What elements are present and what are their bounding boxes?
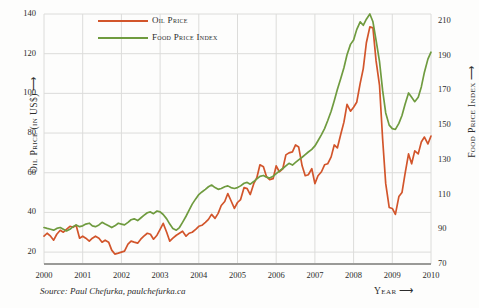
x-tick-2008: 2008	[334, 270, 374, 280]
legend-swatches	[98, 21, 148, 38]
x-axis-title: Year ⟶	[374, 285, 414, 296]
y-tick-right-150: 150	[438, 119, 468, 129]
x-tick-2007: 2007	[295, 270, 335, 280]
y-axis-left-title: Oil Price (in US$) ⟶	[28, 40, 39, 210]
y-tick-right-170: 170	[438, 84, 468, 94]
x-tick-2010: 2010	[411, 270, 451, 280]
y-tick-right-70: 70	[438, 258, 468, 268]
chart-plot-area	[0, 0, 479, 308]
x-tick-2004: 2004	[179, 270, 219, 280]
y-tick-left-120: 120	[8, 48, 36, 58]
x-tick-2002: 2002	[101, 270, 141, 280]
x-tick-2003: 2003	[140, 270, 180, 280]
x-tick-2005: 2005	[218, 270, 258, 280]
y-tick-left-140: 140	[8, 8, 36, 18]
y-tick-right-130: 130	[438, 154, 468, 164]
legend-label-food-price-index: Food Price Index	[152, 32, 218, 42]
y-tick-left-80: 80	[8, 127, 36, 137]
y-tick-right-110: 110	[438, 189, 468, 199]
x-tick-2000: 2000	[24, 270, 64, 280]
y-tick-right-90: 90	[438, 223, 468, 233]
source-caption: Source: Paul Chefurka, paulchefurka.ca	[40, 286, 185, 296]
x-tick-2001: 2001	[63, 270, 103, 280]
y-tick-right-210: 210	[438, 15, 468, 25]
y-tick-left-100: 100	[8, 87, 36, 97]
chart-figure: Oil Price (in US$) ⟶ Food Price Index ⟶ …	[0, 0, 479, 308]
x-tick-2006: 2006	[256, 270, 296, 280]
y-tick-left-40: 40	[8, 206, 36, 216]
grid-lines	[44, 14, 431, 264]
legend-label-oil-price: Oil Price	[152, 15, 188, 25]
y-tick-left-60: 60	[8, 167, 36, 177]
x-tick-2009: 2009	[372, 270, 412, 280]
y-tick-left-20: 20	[8, 246, 36, 256]
y-tick-right-190: 190	[438, 50, 468, 60]
